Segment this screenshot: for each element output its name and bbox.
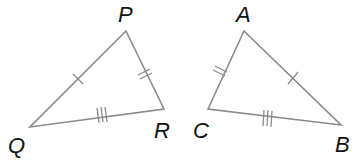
side-cb-tick-marks bbox=[263, 110, 272, 127]
triangle-pqr: P Q R bbox=[8, 2, 170, 158]
vertex-label-r: R bbox=[154, 118, 170, 143]
triangle-abc-outline bbox=[208, 31, 341, 125]
vertex-label-a: A bbox=[234, 2, 251, 27]
side-ac-tick-marks bbox=[213, 66, 227, 76]
vertex-label-q: Q bbox=[8, 133, 25, 158]
vertex-label-b: B bbox=[335, 132, 350, 157]
vertex-label-p: P bbox=[118, 2, 133, 27]
vertex-label-c: C bbox=[193, 118, 209, 143]
side-qr-tick-marks bbox=[97, 107, 107, 123]
triangle-abc: A C B bbox=[193, 2, 350, 157]
congruent-triangles-diagram: P Q R A C B bbox=[0, 0, 359, 162]
